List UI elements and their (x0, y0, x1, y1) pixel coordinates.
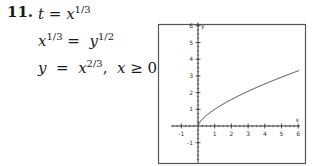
function-curve (198, 71, 299, 126)
y-tick-label: 6 (189, 22, 193, 29)
x-tick-label: -1 (178, 130, 184, 137)
x-tick-label: 6 (296, 130, 300, 137)
x-tick-label: 5 (280, 130, 284, 137)
y-axis-label: y (201, 22, 205, 30)
axes: -1123456-1123456yx (171, 22, 300, 163)
function-graph: -1123456-1123456yx (0, 0, 317, 166)
y-tick-label: 5 (189, 39, 193, 46)
y-tick-label: 3 (189, 72, 193, 79)
x-axis-label: x (295, 116, 299, 123)
x-tick-label: 3 (246, 130, 250, 137)
x-tick-label: 4 (263, 130, 267, 137)
graph-frame (159, 25, 306, 164)
y-tick-label: 4 (189, 55, 193, 62)
y-tick-label: -1 (187, 139, 193, 146)
y-tick-label: 1 (189, 105, 193, 112)
x-tick-label: 1 (213, 130, 217, 137)
x-tick-label: 2 (229, 130, 233, 137)
y-tick-label: 2 (189, 89, 193, 96)
